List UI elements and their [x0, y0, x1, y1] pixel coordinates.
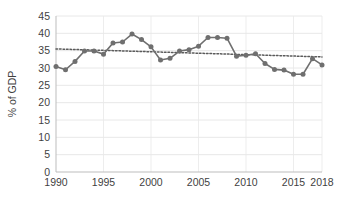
data-point-marker [291, 72, 296, 77]
data-point-marker [168, 56, 173, 61]
data-point-marker [54, 64, 59, 69]
data-point-marker [120, 40, 125, 45]
y-tick-label: 15 [38, 114, 50, 126]
data-point-marker [177, 49, 182, 54]
data-point-marker [139, 37, 144, 42]
data-point-marker [206, 35, 211, 40]
data-point-marker [73, 59, 78, 64]
data-point-marker [225, 36, 230, 41]
x-tick-label: 2000 [139, 176, 163, 188]
data-point-marker [282, 68, 287, 73]
data-point-marker [82, 49, 87, 54]
x-tick-label: 1995 [92, 176, 116, 188]
x-tick-labels: 1990199520002005201020152018 [44, 176, 334, 188]
data-point-marker [215, 35, 220, 40]
y-tick-label: 25 [38, 79, 50, 91]
y-tick-label: 5 [44, 148, 50, 160]
data-point-marker [130, 32, 135, 37]
y-axis-title-text: % of GDP [6, 71, 18, 118]
plot-background [56, 16, 322, 172]
data-point-marker [244, 53, 249, 58]
data-point-marker [149, 44, 154, 49]
data-point-marker [196, 44, 201, 49]
plot-area-rect [56, 16, 322, 172]
data-point-marker [310, 56, 315, 61]
y-tick-labels: 051015202530354045 [38, 10, 50, 178]
line-chart: 051015202530354045 199019952000200520102… [0, 0, 337, 202]
x-tick-label: 2010 [234, 176, 258, 188]
y-tick-label: 35 [38, 44, 50, 56]
data-point-marker [111, 41, 116, 46]
data-point-marker [263, 61, 268, 66]
data-point-marker [92, 49, 97, 54]
data-point-marker [301, 72, 306, 77]
y-tick-label: 20 [38, 96, 50, 108]
y-tick-label: 40 [38, 27, 50, 39]
y-tick-label: 45 [38, 10, 50, 22]
data-point-marker [63, 67, 68, 72]
data-point-marker [272, 67, 277, 72]
data-point-marker [101, 52, 106, 57]
data-point-marker [187, 47, 192, 52]
data-point-marker [253, 51, 258, 56]
y-tick-label: 30 [38, 62, 50, 74]
y-tick-label: 10 [38, 131, 50, 143]
x-tick-label: 2015 [282, 176, 306, 188]
y-axis-title: % of GDP [6, 71, 18, 118]
chart-container: 051015202530354045 199019952000200520102… [0, 0, 337, 202]
x-tick-label: 2018 [310, 176, 334, 188]
x-tick-label: 1990 [44, 176, 68, 188]
x-tick-label: 2005 [187, 176, 211, 188]
data-point-marker [320, 62, 325, 67]
data-point-marker [234, 54, 239, 59]
data-point-marker [158, 58, 163, 63]
